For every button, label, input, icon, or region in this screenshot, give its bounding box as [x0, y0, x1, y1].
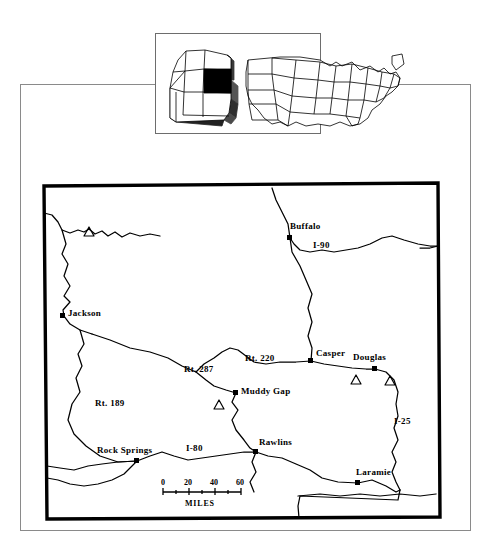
inset-east-outline: [246, 57, 400, 126]
scale-label-60: 60: [236, 479, 244, 487]
city-label-jackson: Jackson: [68, 309, 101, 318]
city-label-buffalo: Buffalo: [290, 222, 321, 231]
map-figure-page: Buffalo Casper Douglas Jackson Muddy Gap…: [0, 0, 491, 541]
usa-locator-inset: [156, 34, 405, 134]
city-label-muddy-gap: Muddy Gap: [241, 387, 290, 396]
route-label-i-25: I-25: [394, 417, 411, 426]
scale-unit-label: MILES: [185, 500, 215, 508]
scale-label-0: 0: [161, 479, 165, 487]
city-marker-douglas: [372, 366, 377, 371]
route-label-rt-189: Rt. 189: [95, 399, 125, 408]
scale-label-20: 20: [184, 479, 192, 487]
map-graphics-layer: [0, 0, 491, 541]
city-label-casper: Casper: [316, 349, 345, 358]
city-label-laramie: Laramie: [356, 468, 391, 477]
city-marker-rock-springs: [134, 458, 139, 463]
city-marker-rawlins: [253, 449, 258, 454]
inset-east-maine: [392, 54, 404, 70]
route-label-rt-287: Rt. 287: [184, 365, 214, 374]
city-label-rawlins: Rawlins: [259, 438, 292, 447]
city-marker-muddy-gap: [233, 390, 238, 395]
city-marker-laramie: [355, 480, 360, 485]
city-marker-buffalo: [287, 235, 292, 240]
city-label-rock-springs: Rock Springs: [97, 446, 152, 455]
inset-wyoming-highlight: [204, 69, 231, 93]
route-label-rt-220: Rt. 220: [245, 354, 275, 363]
route-label-i-90: I-90: [313, 241, 330, 250]
city-marker-casper: [308, 358, 313, 363]
city-marker-jackson: [60, 313, 65, 318]
route-label-i-80: I-80: [186, 444, 203, 453]
city-label-douglas: Douglas: [353, 353, 386, 362]
scale-label-40: 40: [210, 479, 218, 487]
